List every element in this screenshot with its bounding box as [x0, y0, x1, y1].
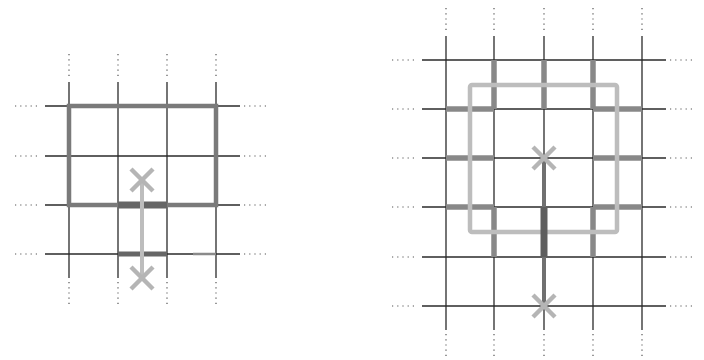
diagram-canvas — [0, 0, 704, 360]
left-grid-diagram — [15, 54, 270, 308]
right-grid-diagram — [392, 8, 696, 360]
